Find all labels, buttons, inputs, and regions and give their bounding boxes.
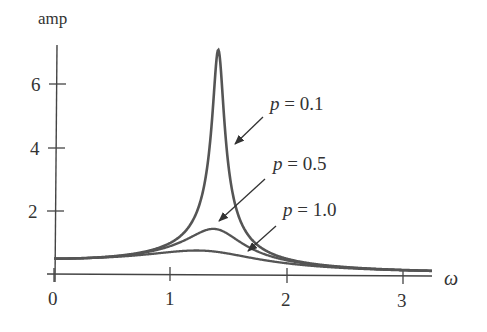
annotation-p-1-0: p = 1.0 <box>248 199 336 251</box>
x-tick-0: 0 <box>48 288 58 309</box>
arrow-p-0-1 <box>235 117 263 144</box>
resonance-chart: 6 4 2 0 1 2 3 amp ω p = 0.1 p = 0.5 p = … <box>0 0 487 332</box>
curve-p-0-1 <box>54 50 432 271</box>
y-axis-title: amp <box>38 9 67 28</box>
y-tick-2: 2 <box>28 201 38 222</box>
x-axis-title: ω <box>444 267 458 289</box>
x-axis <box>47 274 432 276</box>
annotation-p-0-1: p = 0.1 <box>235 93 323 144</box>
svg-text:p = 0.5: p = 0.5 <box>271 153 326 174</box>
x-tick-labels: 0 1 2 3 <box>48 288 407 311</box>
curve-p-0-5 <box>54 229 432 271</box>
svg-text:p = 0.1: p = 0.1 <box>268 93 323 114</box>
y-tick-labels: 6 4 2 <box>28 74 41 222</box>
y-tick-4: 4 <box>30 138 40 159</box>
arrow-p-0-5 <box>219 179 265 221</box>
svg-text:p = 1.0: p = 1.0 <box>281 199 336 220</box>
y-axis <box>55 45 57 282</box>
x-tick-3: 3 <box>397 290 407 311</box>
x-tick-1: 1 <box>165 288 175 309</box>
y-tick-6: 6 <box>31 74 41 95</box>
x-tick-2: 2 <box>281 289 291 310</box>
